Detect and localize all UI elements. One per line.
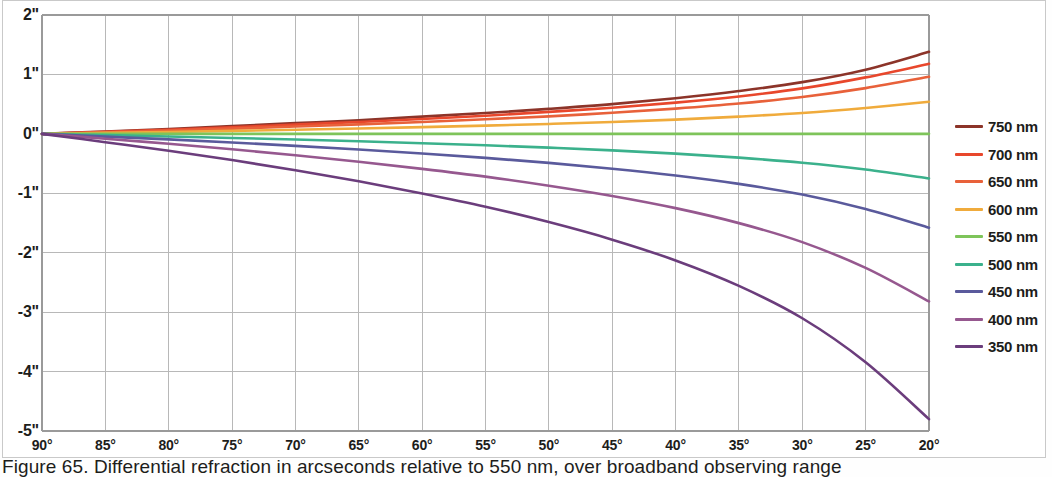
x-axis-tick-label: 35° bbox=[729, 437, 750, 453]
y-axis-tick-label: 0" bbox=[5, 125, 39, 143]
legend-color-swatch bbox=[955, 125, 983, 128]
x-axis-tick-label: 30° bbox=[792, 437, 813, 453]
y-axis-tick-label: -4" bbox=[5, 363, 39, 381]
x-axis-tick-label: 85° bbox=[95, 437, 116, 453]
legend-item[interactable]: 650 nm bbox=[955, 168, 1052, 196]
legend-item-label: 650 nm bbox=[988, 173, 1038, 190]
figure-caption-strip: Figure 65. Differential refraction in ar… bbox=[0, 460, 1052, 477]
chart-legend: 750 nm700 nm650 nm600 nm550 nm500 nm450 … bbox=[955, 113, 1052, 361]
legend-item[interactable]: 350 nm bbox=[955, 333, 1052, 361]
x-axis-tick-label: 80° bbox=[158, 437, 179, 453]
legend-item-label: 600 nm bbox=[988, 201, 1038, 218]
legend-item[interactable]: 600 nm bbox=[955, 196, 1052, 224]
legend-item-label: 450 nm bbox=[988, 283, 1038, 300]
legend-item-label: 500 nm bbox=[988, 256, 1038, 273]
legend-item-label: 750 nm bbox=[988, 118, 1038, 135]
legend-color-swatch bbox=[955, 318, 983, 321]
x-axis-tick-label: 65° bbox=[348, 437, 369, 453]
legend-color-swatch bbox=[955, 208, 983, 211]
x-axis-tick-label: 50° bbox=[539, 437, 560, 453]
y-axis-tick-label: -3" bbox=[5, 303, 39, 321]
legend-item[interactable]: 700 nm bbox=[955, 141, 1052, 169]
y-axis-tick-label: -1" bbox=[5, 184, 39, 202]
chart-frame: 2"1"0"-1"-2"-3"-4"-5" 90°85°80°75°70°65°… bbox=[2, 0, 1046, 458]
x-axis-tick-label: 20° bbox=[919, 437, 940, 453]
legend-item-label: 550 nm bbox=[988, 228, 1038, 245]
legend-item[interactable]: 500 nm bbox=[955, 251, 1052, 279]
legend-item[interactable]: 750 nm bbox=[955, 113, 1052, 141]
y-axis-tick-label: 1" bbox=[5, 65, 39, 83]
legend-item[interactable]: 400 nm bbox=[955, 306, 1052, 334]
x-axis-tick-label: 60° bbox=[412, 437, 433, 453]
legend-color-swatch bbox=[955, 290, 983, 293]
x-axis-tick-label: 75° bbox=[222, 437, 243, 453]
legend-item-label: 400 nm bbox=[988, 311, 1038, 328]
legend-item-label: 350 nm bbox=[988, 338, 1038, 355]
x-axis-tick-label: 25° bbox=[855, 437, 876, 453]
legend-item-label: 700 nm bbox=[988, 146, 1038, 163]
legend-item[interactable]: 550 nm bbox=[955, 223, 1052, 251]
figure-root: 2"1"0"-1"-2"-3"-4"-5" 90°85°80°75°70°65°… bbox=[0, 0, 1052, 477]
legend-color-swatch bbox=[955, 235, 983, 238]
legend-color-swatch bbox=[955, 153, 983, 156]
legend-color-swatch bbox=[955, 263, 983, 266]
legend-color-swatch bbox=[955, 345, 983, 348]
x-axis-tick-label: 90° bbox=[32, 437, 53, 453]
chart-plot-area bbox=[3, 1, 1047, 459]
x-axis-tick-label: 40° bbox=[665, 437, 686, 453]
legend-item[interactable]: 450 nm bbox=[955, 278, 1052, 306]
figure-caption: Figure 65. Differential refraction in ar… bbox=[2, 460, 842, 477]
x-axis-tick-label: 55° bbox=[475, 437, 496, 453]
gridlines bbox=[42, 15, 929, 431]
x-axis-tick-label: 45° bbox=[602, 437, 623, 453]
y-axis-tick-label: -2" bbox=[5, 244, 39, 262]
legend-color-swatch bbox=[955, 180, 983, 183]
y-axis-tick-label: 2" bbox=[5, 6, 39, 24]
x-axis-tick-label: 70° bbox=[285, 437, 306, 453]
